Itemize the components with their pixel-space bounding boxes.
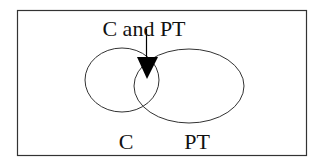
intersection-label: C and PT bbox=[102, 16, 186, 41]
set-c-label: C bbox=[119, 129, 134, 154]
venn-diagram: C and PT C PT bbox=[0, 0, 321, 165]
set-pt-label: PT bbox=[184, 129, 210, 154]
